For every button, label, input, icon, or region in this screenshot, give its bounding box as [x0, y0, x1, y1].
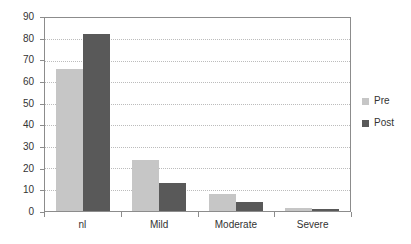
bar-group-severe — [274, 18, 350, 211]
x-tick-label-severe: Severe — [297, 220, 329, 230]
bar-chart: 90 80 70 60 50 40 30 20 10 0 — [0, 0, 411, 244]
legend-swatch-icon-pre — [362, 98, 369, 105]
y-tick-label: 30 — [23, 142, 34, 152]
y-tick-label: 10 — [23, 185, 34, 195]
bar-pre-severe[interactable] — [285, 208, 312, 211]
legend: Pre Post — [362, 96, 410, 140]
x-tick-label-mild: Mild — [150, 220, 168, 230]
bars-layer — [45, 18, 350, 211]
y-tick-label: 70 — [23, 55, 34, 65]
y-tick-label: 0 — [28, 207, 34, 217]
bar-post-nl[interactable] — [83, 34, 110, 211]
x-tick-mark — [121, 212, 122, 217]
legend-item-post[interactable]: Post — [362, 118, 410, 128]
y-axis: 90 80 70 60 50 40 30 20 10 0 — [0, 17, 40, 212]
y-tick-label: 50 — [23, 99, 34, 109]
y-tick-label: 80 — [23, 34, 34, 44]
legend-label-post: Post — [374, 118, 394, 128]
bar-post-moderate[interactable] — [236, 202, 263, 211]
legend-item-pre[interactable]: Pre — [362, 96, 410, 106]
bar-group-mild — [121, 18, 197, 211]
y-tick-label: 40 — [23, 120, 34, 130]
legend-label-pre: Pre — [374, 96, 390, 106]
bar-group-moderate — [198, 18, 274, 211]
x-tick-mark — [351, 212, 352, 217]
bar-post-severe[interactable] — [312, 209, 339, 211]
x-tick-mark — [274, 212, 275, 217]
x-tick-label-moderate: Moderate — [215, 220, 257, 230]
plot-area — [44, 17, 351, 212]
bar-pre-nl[interactable] — [56, 69, 83, 211]
bar-post-mild[interactable] — [159, 183, 186, 211]
x-tick-mark — [198, 212, 199, 217]
y-tick-label: 60 — [23, 77, 34, 87]
bar-pre-moderate[interactable] — [209, 194, 236, 211]
y-tick-label: 90 — [23, 12, 34, 22]
y-tick-label: 20 — [23, 164, 34, 174]
x-axis: nl Mild Moderate Severe — [44, 212, 351, 242]
bar-pre-mild[interactable] — [132, 160, 159, 211]
x-tick-mark — [44, 212, 45, 217]
x-tick-label-nl: nl — [78, 220, 86, 230]
bar-group-nl — [45, 18, 121, 211]
legend-swatch-icon-post — [362, 120, 369, 127]
